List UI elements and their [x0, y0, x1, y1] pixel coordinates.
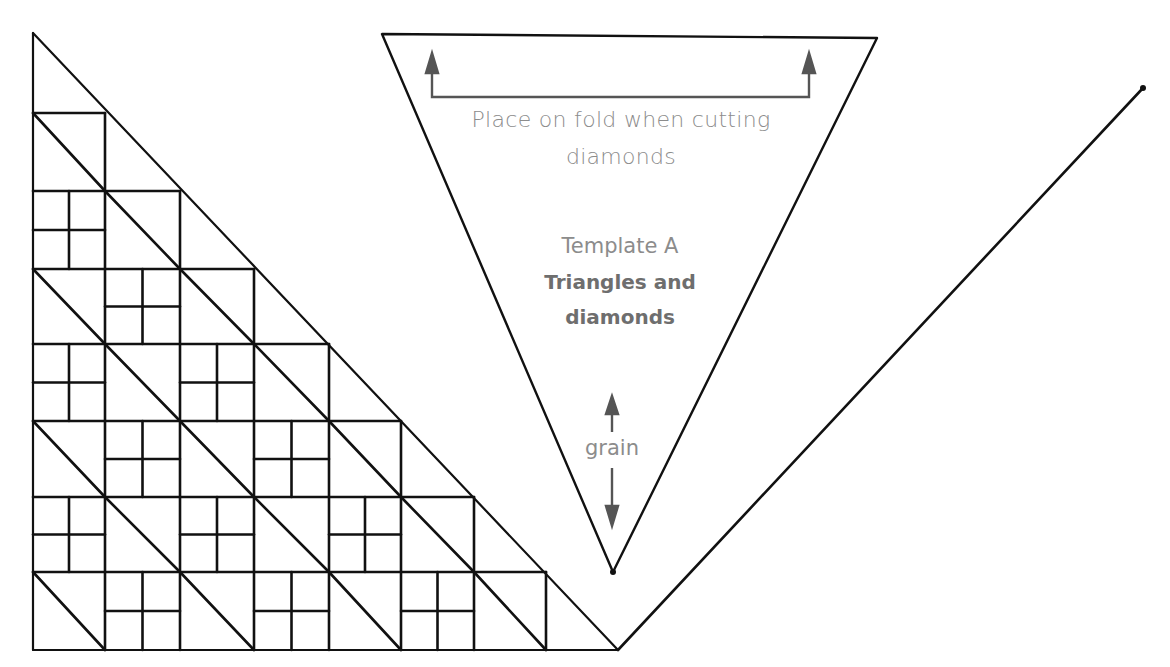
diagonal-block-line [401, 497, 474, 572]
diagonal-block-line [105, 191, 180, 269]
diagonal-block-line [33, 113, 105, 191]
fold-arrow-left-head [426, 53, 438, 73]
diagonal-block-line [33, 269, 105, 344]
quilt-block-grid [33, 113, 546, 650]
diagonal-block-line [329, 421, 401, 497]
quilt-diagram-canvas [0, 0, 1170, 667]
diagonal-block-line [105, 344, 180, 421]
fold-arrow [426, 53, 815, 97]
diagonal-block-line [180, 572, 254, 650]
diagonal-block-line [33, 572, 105, 650]
diagonal-block-line [180, 269, 254, 344]
grain-arrow-down-head [606, 506, 618, 526]
grain-arrow [606, 396, 618, 526]
fold-instruction-line-2: diamonds [432, 140, 810, 174]
diagonal-block-line [329, 572, 401, 650]
template-title-line-2: diamonds [500, 302, 740, 332]
fold-arrow-right-head [803, 53, 815, 73]
right-line-end-dot [1140, 85, 1146, 91]
template-name: Template A [520, 232, 720, 260]
diagonal-block-line [180, 421, 254, 497]
diagonal-block-line [254, 497, 329, 572]
grain-label: grain [572, 436, 652, 460]
diagonal-block-line [33, 421, 105, 497]
diagonal-block-line [254, 344, 329, 421]
grain-arrow-up-head [606, 396, 618, 414]
template-title-line-1: Triangles and [500, 267, 740, 297]
fold-instruction-line-1: Place on fold when cutting [432, 103, 810, 137]
diagonal-block-line [474, 572, 546, 650]
template-bottom-dot [610, 569, 616, 575]
diagonal-block-line [105, 497, 180, 572]
